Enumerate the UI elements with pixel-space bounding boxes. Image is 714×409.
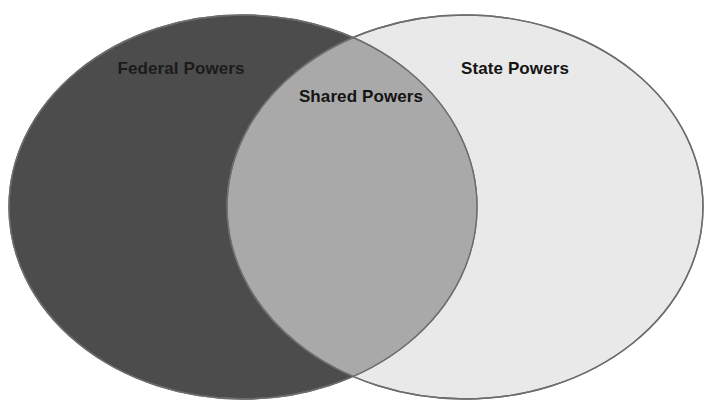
venn-diagram-canvas [0, 0, 714, 409]
venn-diagram: Federal Powers Shared Powers State Power… [0, 0, 714, 409]
